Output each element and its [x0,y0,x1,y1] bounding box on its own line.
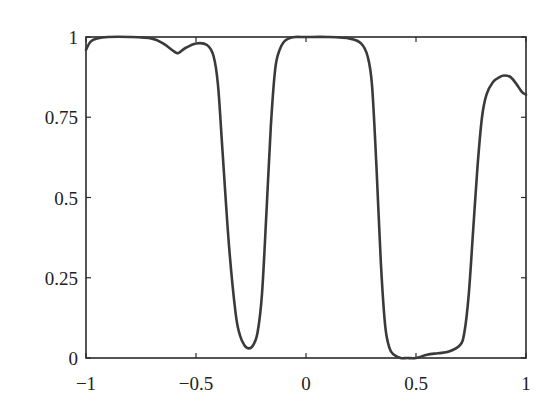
y-tick-label: 0.5 [54,188,78,209]
x-tick-label: −0.5 [179,373,213,394]
axes-box [86,37,526,358]
x-tick-label: 0.5 [404,373,428,394]
x-tick-label: 1 [521,373,531,394]
x-tick-label: −1 [76,373,96,394]
y-tick-label: 0 [69,348,79,369]
x-tick-label: 0 [301,373,311,394]
axis-ticks [86,37,526,358]
y-tick-label: 0.25 [45,268,78,289]
y-tick-label: 1 [69,27,79,48]
line-chart: −1−0.500.51 00.250.50.751 [0,0,549,410]
data-series-line [86,37,526,358]
y-tick-labels: 00.250.50.751 [45,27,78,369]
y-tick-label: 0.75 [45,107,78,128]
x-tick-labels: −1−0.500.51 [76,373,531,394]
